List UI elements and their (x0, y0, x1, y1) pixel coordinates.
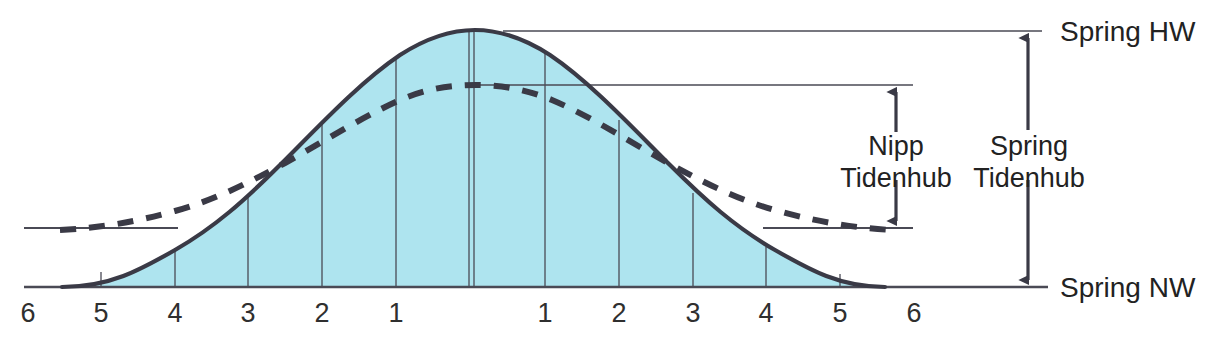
x-axis-tick-left-6: 6 (13, 300, 43, 327)
spring-tidenhub-label: Spring Tidenhub (958, 131, 1100, 195)
x-axis-tick-right-3: 3 (678, 300, 708, 327)
spring-nw-label: Spring NW (1060, 273, 1195, 304)
tide-diagram: Spring HW Spring NW Nipp Tidenhub Spring… (0, 0, 1205, 343)
x-axis-tick-right-2: 2 (604, 300, 634, 327)
x-axis-tick-left-4: 4 (160, 300, 190, 327)
x-axis-tick-right-6: 6 (899, 300, 929, 327)
spring-tidenhub-label-line2: Tidenhub (958, 163, 1100, 195)
x-axis-tick-left-2: 2 (307, 300, 337, 327)
nipp-tidenhub-label-line1: Nipp (826, 131, 966, 163)
nipp-tidenhub-label: Nipp Tidenhub (826, 131, 966, 195)
x-axis-tick-left-1: 1 (381, 300, 411, 327)
x-axis-tick-right-4: 4 (751, 300, 781, 327)
x-axis-tick-right-5: 5 (825, 300, 855, 327)
nipp-tidenhub-label-line2: Tidenhub (826, 163, 966, 195)
x-axis-tick-left-3: 3 (233, 300, 263, 327)
x-axis-tick-left-5: 5 (86, 300, 116, 327)
spring-hw-label: Spring HW (1060, 17, 1195, 48)
spring-tidenhub-label-line1: Spring (958, 131, 1100, 163)
x-axis-tick-right-1: 1 (530, 300, 560, 327)
